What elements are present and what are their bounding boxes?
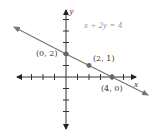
point-label-0-2: (0, 2) (36, 49, 58, 58)
point-0-2 (64, 52, 69, 57)
coordinate-graph: y x x + 2y = 4 (0, 2) (2, 1) (4, 0) (0, 0, 157, 139)
y-axis-label: y (69, 6, 74, 16)
x-axis-label: x (133, 79, 138, 89)
point-label-2-1: (2, 1) (93, 54, 115, 63)
point-2-1 (87, 63, 92, 68)
point-label-4-0: (4, 0) (101, 84, 123, 93)
point-4-0 (110, 75, 115, 80)
equation-label: x + 2y = 4 (83, 20, 123, 30)
